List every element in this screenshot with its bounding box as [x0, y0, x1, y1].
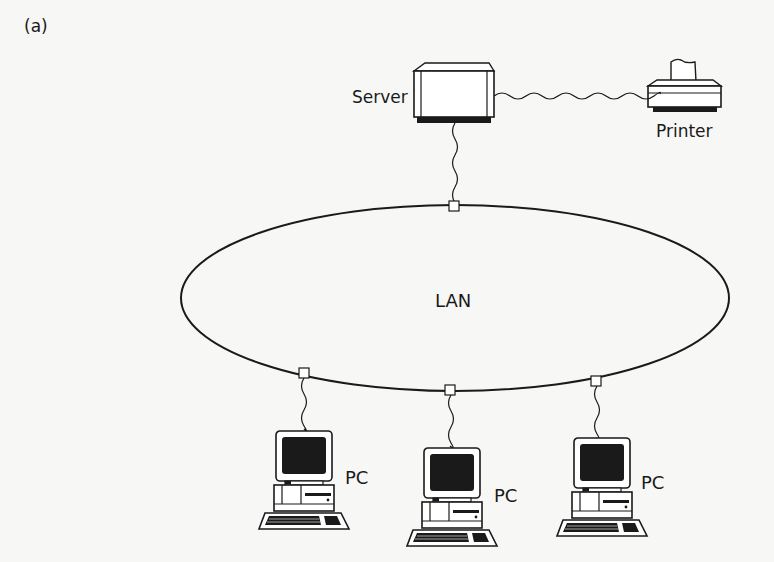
- pc-icon: [557, 438, 647, 536]
- lan-tap-pc-1: [299, 368, 309, 378]
- pc-icon: [259, 431, 349, 529]
- lan-tap-pc-2: [445, 385, 455, 395]
- printer-icon: [648, 59, 721, 112]
- printer-label: Printer: [656, 123, 713, 140]
- server-printer-cable: [494, 92, 660, 99]
- pc-icon: [407, 448, 497, 546]
- lan-tap-pc-3: [591, 376, 601, 386]
- server-icon: [414, 63, 494, 123]
- lan-tap-server: [449, 201, 459, 211]
- lan-label: LAN: [435, 292, 471, 310]
- pc-label-3: PC: [641, 474, 664, 492]
- server-label: Server: [352, 89, 408, 106]
- panel-label: (a): [24, 18, 48, 35]
- pc-label-2: PC: [494, 487, 517, 505]
- server-lan-cable: [453, 123, 458, 209]
- pc-label-1: PC: [345, 469, 368, 487]
